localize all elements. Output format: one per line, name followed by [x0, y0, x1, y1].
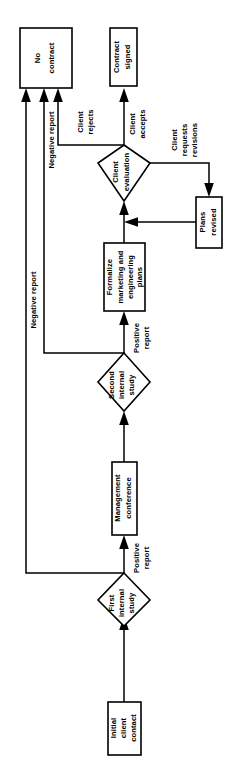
node-first-internal-study-label-line-2: internal — [117, 589, 126, 617]
node-plans-revised-label-line-1: Plans — [198, 212, 207, 233]
node-management-conference[interactable]: Management conference — [112, 462, 137, 535]
edge-label-client-accepts-line-1: Client — [128, 113, 137, 135]
node-second-internal-study-label-line-1: Second — [107, 371, 116, 399]
node-second-internal-study-label-line-2: internal — [117, 371, 126, 399]
node-formalize-plans-label-line-1: Formalize — [105, 259, 114, 295]
flowchart-canvas: No contract Contract signed Client evalu… — [0, 0, 229, 774]
edge-label-positive-report-upper: Positive report — [132, 323, 151, 353]
node-contract-signed-label-line-2: signed — [123, 44, 132, 69]
edge-label-negative-report-upper-text: Negative report — [47, 111, 56, 169]
edge-label-positive-report-lower-line-1: Positive — [132, 543, 141, 573]
node-first-internal-study[interactable]: First internal study — [98, 573, 150, 626]
edge-label-client-requests-revisions-line-2: requests — [180, 124, 189, 156]
node-plans-revised[interactable]: Plans revised — [196, 197, 222, 248]
edge-label-positive-report-upper-line-1: Positive — [132, 323, 141, 353]
edge-label-positive-report-upper-line-2: report — [142, 326, 151, 349]
edge-label-negative-report-lower-text: Negative report — [29, 271, 38, 329]
node-contract-signed[interactable]: Contract signed — [110, 28, 137, 86]
node-no-contract-label-line-1: No — [33, 53, 42, 64]
node-first-internal-study-label-line-1: First — [107, 594, 116, 611]
node-initial-client-contact-label-line-2: client — [119, 717, 128, 738]
node-formalize-plans[interactable]: Formalize marketing and engineering plan… — [104, 243, 145, 311]
edge-label-client-accepts: Client accepts — [128, 110, 147, 139]
node-formalize-plans-label-line-3: engineering — [126, 255, 135, 299]
node-first-internal-study-label-line-3: study — [127, 592, 136, 613]
edge-label-client-rejects-line-2: rejects — [86, 109, 95, 134]
edge-label-client-accepts-line-2: accepts — [138, 110, 147, 139]
node-management-conference-label-line-1: Management — [113, 474, 122, 522]
edge-first-study-to-management-conference — [119, 535, 129, 573]
edge-label-client-rejects-line-1: Client — [76, 111, 85, 133]
flowchart-svg: No contract Contract signed Client evalu… — [0, 0, 229, 774]
node-formalize-plans-label-line-2: marketing and — [116, 250, 125, 303]
edge-label-client-requests-revisions-line-3: revisions — [190, 123, 199, 157]
node-formalize-plans-label-line-4: plans — [135, 267, 144, 287]
edge-label-client-requests-revisions-line-1: Client — [170, 129, 179, 151]
node-no-contract[interactable]: No contract — [20, 28, 72, 88]
node-contract-signed-label-line-1: Contract — [112, 41, 121, 73]
edge-client-evaluation-to-plans-revised — [150, 163, 214, 197]
node-plans-revised-label-line-2: revised — [209, 208, 218, 236]
node-no-contract-label-line-2: contract — [47, 42, 56, 73]
node-client-evaluation-label-line-2: evaluation — [122, 152, 131, 191]
node-client-evaluation[interactable]: Client evaluation — [98, 145, 150, 201]
edge-label-positive-report-lower: Positive report — [132, 543, 151, 573]
node-client-evaluation-label-line-1: Client — [111, 161, 120, 183]
edge-second-study-to-formalize-plans — [119, 311, 129, 353]
edge-label-positive-report-lower-line-2: report — [142, 546, 151, 569]
node-second-internal-study-label-line-3: study — [127, 374, 136, 395]
edge-label-negative-report-upper: Negative report — [47, 111, 56, 169]
node-initial-client-contact[interactable]: Initial client contact — [108, 702, 141, 755]
edge-management-conference-to-second-study — [119, 411, 129, 462]
node-second-internal-study[interactable]: Second internal study — [98, 353, 150, 411]
node-management-conference-label-line-2: conference — [124, 477, 133, 519]
edge-plans-revised-to-client-evaluation — [124, 217, 196, 227]
node-initial-client-contact-label-line-3: contact — [129, 714, 138, 742]
edge-label-client-requests-revisions: Client requests revisions — [170, 123, 199, 157]
edge-initial-contact-to-first-study — [119, 616, 129, 702]
edge-label-client-rejects: Client rejects — [76, 109, 95, 134]
edge-label-negative-report-lower: Negative report — [29, 271, 38, 329]
node-initial-client-contact-label-line-1: Initial — [109, 718, 118, 739]
